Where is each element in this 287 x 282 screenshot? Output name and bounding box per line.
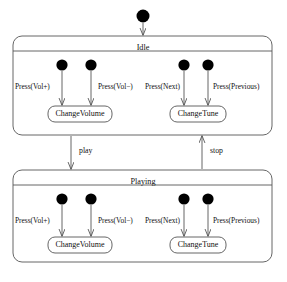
state-title-idle: Idle <box>137 44 150 52</box>
event-label-playing-ev-voldown: Press(Vol−) <box>98 217 133 224</box>
initial-idle-next <box>178 59 189 70</box>
action-state-label-idle-changetune: ChangeTune <box>178 110 219 118</box>
event-label-idle-ev-next: Press(Next) <box>145 83 180 90</box>
action-state-label-idle-changevolume: ChangeVolume <box>55 110 104 118</box>
event-label-playing-ev-volup: Press(Vol+) <box>15 217 50 224</box>
event-label-idle-ev-previous: Press(Previous) <box>213 83 259 90</box>
initial-playing-voldown <box>85 193 96 204</box>
transition-label-playing-to-idle: stop <box>210 147 223 155</box>
event-label-idle-ev-voldown: Press(Vol−) <box>98 83 133 90</box>
state-title-playing: Playing <box>130 178 155 186</box>
action-state-label-playing-changevolume: ChangeVolume <box>55 241 104 249</box>
initial-idle-previous <box>202 59 213 70</box>
initial-pseudostate <box>137 10 150 23</box>
initial-playing-next <box>178 193 189 204</box>
initial-idle-voldown <box>85 59 96 70</box>
transition-label-idle-to-playing: play <box>79 147 92 155</box>
initial-playing-previous <box>202 193 213 204</box>
action-state-label-playing-changetune: ChangeTune <box>178 241 219 249</box>
event-label-playing-ev-previous: Press(Previous) <box>213 217 259 224</box>
event-label-idle-ev-volup: Press(Vol+) <box>15 83 50 90</box>
event-label-playing-ev-next: Press(Next) <box>145 217 180 224</box>
initial-playing-volup <box>56 193 67 204</box>
initial-idle-volup <box>56 59 67 70</box>
